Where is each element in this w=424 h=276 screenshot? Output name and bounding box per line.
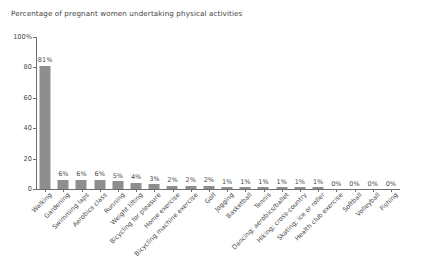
bar-item: 2%: [163, 37, 181, 189]
bar-rect: [58, 180, 69, 189]
bar-item: 1%: [273, 37, 291, 189]
x-axis-tick-label: Golf: [203, 191, 218, 206]
bar-item: 0%: [327, 37, 345, 189]
bar-item: 81%: [36, 37, 54, 189]
x-axis-labels: WalkingGardeningSwimming lapsAerobics cl…: [36, 191, 416, 276]
bar-value-label: 6%: [58, 170, 68, 178]
bar-item: 0%: [364, 37, 382, 189]
bar-chart: Percentage of pregnant women undertaking…: [0, 0, 424, 276]
chart-title: Percentage of pregnant women undertaking…: [11, 9, 242, 18]
bar-value-label: 6%: [95, 170, 105, 178]
bar-item: 0%: [345, 37, 363, 189]
bar-value-label: 6%: [76, 170, 86, 178]
bar-item: 1%: [309, 37, 327, 189]
bar-item: 1%: [218, 37, 236, 189]
bar-value-label: 81%: [38, 56, 52, 64]
bar-item: 5%: [109, 37, 127, 189]
bar-value-label: 0%: [368, 180, 378, 188]
bar-series: 81%6%6%6%5%4%3%2%2%2%1%1%1%1%1%1%0%0%0%0…: [36, 37, 400, 189]
x-axis-tick-label: Fishing: [378, 191, 399, 212]
bar-value-label: 1%: [258, 178, 268, 186]
bar-item: 4%: [127, 37, 145, 189]
bar-value-label: 2%: [167, 176, 177, 184]
bar-rect: [76, 180, 87, 189]
bar-value-label: 1%: [240, 178, 250, 186]
plot-area: 020406080100% 81%6%6%6%5%4%3%2%2%2%1%1%1…: [36, 37, 400, 189]
bar-rect: [40, 66, 51, 189]
bar-value-label: 5%: [113, 172, 123, 180]
bar-item: 0%: [382, 37, 400, 189]
bar-item: 6%: [54, 37, 72, 189]
bar-item: 6%: [72, 37, 90, 189]
bar-item: 1%: [236, 37, 254, 189]
bar-rect: [112, 181, 123, 189]
bar-value-label: 1%: [277, 178, 287, 186]
bar-item: 3%: [145, 37, 163, 189]
x-axis-tick-label-text: Fishing: [378, 191, 399, 212]
bar-value-label: 1%: [295, 178, 305, 186]
y-axis-tick-mark: [33, 189, 36, 190]
bar-value-label: 1%: [313, 178, 323, 186]
bar-value-label: 0%: [331, 180, 341, 188]
bar-rect: [94, 180, 105, 189]
bar-value-label: 1%: [222, 178, 232, 186]
bar-value-label: 3%: [149, 175, 159, 183]
bar-value-label: 2%: [186, 176, 196, 184]
bar-item: 1%: [291, 37, 309, 189]
bar-value-label: 0%: [349, 180, 359, 188]
bar-item: 2%: [182, 37, 200, 189]
bar-item: 1%: [254, 37, 272, 189]
x-axis-line: [36, 189, 400, 190]
x-axis-tick-label-text: Golf: [203, 191, 218, 206]
bar-value-label: 4%: [131, 173, 141, 181]
bar-item: 6%: [91, 37, 109, 189]
bar-value-label: 0%: [386, 180, 396, 188]
bar-value-label: 2%: [204, 176, 214, 184]
bar-item: 2%: [200, 37, 218, 189]
